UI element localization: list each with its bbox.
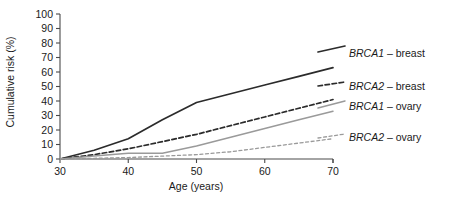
y-tick-label: 100 — [35, 8, 53, 20]
x-tick-label: 30 — [54, 165, 66, 177]
x-tick-label: 60 — [259, 165, 271, 177]
legend-label-brca2-ovary: BRCA2 – ovary — [349, 131, 422, 143]
legend-swatch-brca2-ovary — [318, 134, 345, 138]
cumulative-risk-line-chart: 0102030405060708090100 3040506070 BRCA1 … — [0, 0, 452, 201]
y-tick-label: 30 — [41, 109, 53, 121]
legend-label-brca1-breast: BRCA1 – breast — [349, 47, 425, 59]
x-axis-title: Age (years) — [169, 180, 223, 192]
legend-label-brca2-breast: BRCA2 – breast — [349, 80, 425, 92]
y-tick-label: 50 — [41, 80, 53, 92]
y-tick-label: 40 — [41, 95, 53, 107]
y-tick-label: 20 — [41, 124, 53, 136]
y-axis-title: Cumulative risk (%) — [4, 36, 16, 127]
y-tick-label: 80 — [41, 37, 53, 49]
legend-swatch-brca1-breast — [318, 46, 345, 52]
series-lines — [60, 68, 333, 159]
chart-figure: 0102030405060708090100 3040506070 BRCA1 … — [0, 0, 452, 201]
legend-swatch-brca2-breast — [318, 82, 345, 86]
legend-label-brca1-ovary: BRCA1 – ovary — [349, 100, 422, 112]
y-tick-label: 60 — [41, 66, 53, 78]
y-tick-label: 10 — [41, 138, 53, 150]
series-line-brca2-breast — [60, 100, 333, 159]
x-tick-label: 70 — [327, 165, 339, 177]
x-axis: 3040506070 — [54, 159, 339, 177]
chart-legend: BRCA1 – breastBRCA2 – breastBRCA1 – ovar… — [318, 46, 425, 143]
legend-swatch-brca1-ovary — [318, 101, 345, 108]
x-tick-label: 40 — [122, 165, 134, 177]
y-axis: 0102030405060708090100 — [35, 8, 60, 165]
y-tick-label: 90 — [41, 22, 53, 34]
y-tick-label: 0 — [47, 153, 53, 165]
y-tick-label: 70 — [41, 51, 53, 63]
x-tick-label: 50 — [191, 165, 203, 177]
